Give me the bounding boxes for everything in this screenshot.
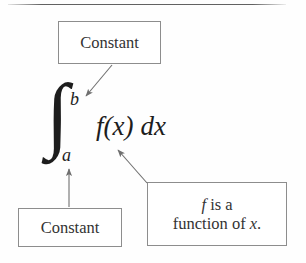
callout-upper-limit: Constant xyxy=(58,21,161,64)
integral-upper-limit: b xyxy=(70,89,79,110)
callout-lower-limit: Constant xyxy=(18,208,122,247)
callout-integrand: f is a function of x. xyxy=(147,182,287,246)
integral-sign-glyph: ∫ xyxy=(46,72,69,156)
callout-lower-limit-label: Constant xyxy=(41,218,100,237)
integral-expression: ∫ b a f(x)dx xyxy=(46,86,196,168)
top-divider-rule xyxy=(8,4,286,5)
callout-integrand-period: . xyxy=(257,214,261,233)
integral-annotation-figure: Constant Constant f is a function of x. … xyxy=(0,0,306,263)
integrand-function: f(x) xyxy=(96,111,133,141)
callout-integrand-text: f is a function of x. xyxy=(173,195,261,234)
callout-integrand-line1-rest: is a xyxy=(206,195,233,214)
integral-lower-limit: a xyxy=(62,145,71,166)
integrand-expression: f(x)dx xyxy=(96,111,166,142)
callout-integrand-x: x xyxy=(250,214,257,233)
callout-integrand-line2-rest: function of xyxy=(173,214,250,233)
callout-integrand-line2: function of x. xyxy=(173,214,261,233)
callout-integrand-line1: f is a xyxy=(173,195,261,214)
integrand-differential: dx xyxy=(140,111,165,141)
callout-upper-limit-label: Constant xyxy=(80,33,139,52)
